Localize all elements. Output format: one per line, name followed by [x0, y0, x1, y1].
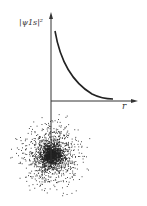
electron-cloud [10, 114, 90, 196]
x-axis-arrow-icon [131, 99, 138, 103]
y-axis-label: |ψ1s|² [19, 18, 43, 27]
probability-curve [55, 31, 113, 99]
x-axis-label: r [122, 101, 126, 111]
y-axis-arrow-icon [49, 12, 53, 19]
